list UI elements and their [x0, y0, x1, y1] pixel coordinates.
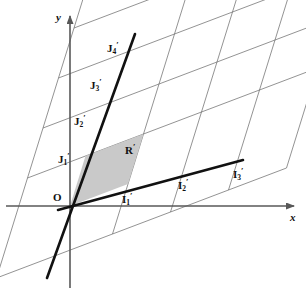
x-axis-label: x	[290, 212, 296, 223]
lattice-figure	[0, 0, 306, 306]
y-axis-label: y	[56, 12, 61, 23]
label-i1: I1′	[122, 192, 133, 206]
label-i2: I2′	[178, 178, 189, 192]
label-j1: J1′	[58, 152, 70, 166]
grid-lines-j-family	[0, 0, 306, 278]
label-j4: J4′	[107, 41, 119, 55]
label-j2: J2′	[74, 114, 86, 128]
grid-line	[0, 0, 90, 278]
grid-line	[287, 0, 307, 168]
label-i3: I3′	[233, 167, 244, 181]
label-j3: J3′	[90, 78, 102, 92]
grid-lines-i-family	[0, 0, 306, 278]
grid-line	[59, 0, 307, 78]
label-origin: O	[53, 192, 62, 203]
grid-line	[74, 0, 306, 28]
label-region-r: R′	[125, 143, 135, 156]
grid-line	[0, 168, 287, 278]
